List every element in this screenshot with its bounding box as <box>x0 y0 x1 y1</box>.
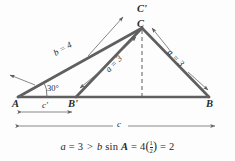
vertex-label-C: C <box>137 19 144 30</box>
formula-a-symbol: a <box>61 141 66 152</box>
formula-sin: sin <box>105 141 118 152</box>
formula-equals-2: = <box>131 141 137 152</box>
formula-A-symbol: A <box>121 141 128 152</box>
angle-label-30deg: 30° <box>47 84 59 93</box>
formula-b-symbol: b <box>97 141 102 152</box>
geometry-figure <box>0 0 235 161</box>
formula-equals-1: = <box>69 141 75 152</box>
formula-equals-3: = <box>160 141 166 152</box>
segment-AC <box>18 28 142 97</box>
formula-fraction-denominator: 2 <box>150 147 153 155</box>
formula-line: a = 3 > b sin A = 4(12) = 2 <box>0 139 235 155</box>
vertex-label-B-prime: B' <box>68 99 78 110</box>
formula-greater-than: > <box>86 141 94 152</box>
formula-paren-close: ) <box>153 139 157 153</box>
leader-b-lower <box>10 75 35 85</box>
leader-b-upper <box>88 17 123 56</box>
leader-a-inner-lower <box>80 68 104 88</box>
formula-a-value: 3 <box>78 141 83 152</box>
dimension-label-c: c <box>117 120 121 129</box>
formula-result: 2 <box>169 141 174 152</box>
formula-fraction-numerator: 1 <box>150 140 153 147</box>
dimension-label-c-prime: c' <box>42 101 48 110</box>
vertex-label-A: A <box>12 99 19 110</box>
vertex-label-B: B <box>206 99 213 110</box>
vertex-label-C-prime: C' <box>137 4 147 15</box>
formula-fraction-one-half: 12 <box>150 140 153 155</box>
figure-container: A B' B C C' b = 4 a = 3 a = 3 30° c' c a… <box>0 0 235 161</box>
